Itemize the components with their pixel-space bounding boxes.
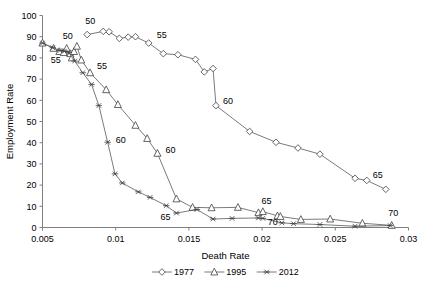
data-point-marker-1977 (116, 35, 123, 42)
data-point-marker-2012 (147, 195, 153, 200)
data-point-marker-1977 (125, 34, 132, 41)
x-tick-label: 0.015 (178, 234, 201, 244)
data-point-marker-2012 (290, 221, 296, 226)
x-tick-label: 0.01 (107, 234, 125, 244)
data-point-marker-1977 (352, 175, 359, 182)
chart-legend: 197719952012 (152, 267, 299, 277)
legend-label-2012: 2012 (279, 267, 299, 277)
point-annotation-1995-55: 55 (97, 61, 107, 71)
point-annotation-2012-55: 55 (51, 55, 61, 65)
point-annotation-1977-65: 65 (373, 170, 383, 180)
y-tick-label: 70 (26, 74, 36, 84)
y-axis-title: Employment Rate (4, 84, 15, 160)
data-point-marker-1977 (201, 69, 208, 76)
legend-item-1995[interactable]: 1995 (204, 267, 246, 277)
point-annotation-1977-60: 60 (223, 96, 233, 106)
legend-item-2012[interactable]: 2012 (257, 267, 299, 277)
data-point-marker-1977 (213, 102, 220, 109)
data-point-marker-1977 (383, 186, 390, 193)
data-point-marker-2012 (317, 222, 323, 227)
data-point-marker-2012 (80, 70, 86, 75)
data-point-marker-1977 (106, 29, 113, 36)
series-1977 (84, 28, 389, 193)
legend-marker-2012 (264, 270, 270, 275)
legend-label-1977: 1977 (174, 267, 194, 277)
axis-ticks-layer: 01020304050607080901000.0050.010.0150.02… (21, 11, 417, 244)
chart-container: 01020304050607080901000.0050.010.0150.02… (0, 0, 423, 290)
point-annotation-1995-50: 50 (63, 31, 73, 41)
data-point-marker-1977 (273, 139, 280, 146)
data-point-marker-1977 (295, 145, 302, 152)
data-point-marker-1995 (87, 69, 94, 76)
data-point-marker-2012 (279, 221, 285, 226)
y-tick-label: 0 (31, 223, 36, 233)
point-annotation-2012-60: 60 (116, 135, 126, 145)
data-point-marker-1995 (73, 42, 80, 49)
data-point-marker-1977 (192, 56, 199, 63)
legend-marker-1977 (159, 269, 166, 276)
data-point-marker-1977 (145, 40, 152, 47)
data-point-marker-1995 (154, 150, 161, 157)
x-tick-label: 0.025 (324, 234, 347, 244)
y-tick-label: 80 (26, 53, 36, 63)
data-point-marker-1995 (234, 204, 241, 211)
point-annotation-2012-70: 70 (388, 208, 398, 218)
data-point-marker-1995 (259, 208, 266, 215)
data-point-marker-2012 (88, 82, 94, 87)
data-point-marker-1977 (210, 65, 217, 72)
y-tick-label: 30 (26, 159, 36, 169)
series-line-2012 (43, 43, 391, 226)
point-annotation-1995-60: 60 (165, 145, 175, 155)
data-point-marker-1977 (317, 151, 324, 158)
point-annotation-1977-55: 55 (157, 30, 167, 40)
data-point-marker-1995 (78, 56, 85, 63)
legend-marker-1995 (211, 268, 218, 275)
point-annotation-2012-70: 70 (268, 217, 278, 227)
data-point-marker-2012 (229, 216, 235, 221)
data-point-marker-1977 (100, 28, 107, 35)
data-series-layer (39, 28, 395, 228)
data-point-marker-1977 (175, 51, 182, 58)
data-point-marker-1977 (132, 33, 139, 40)
axes-layer (43, 16, 409, 228)
point-annotation-1995-65: 65 (261, 196, 271, 206)
series-line-1977 (87, 31, 386, 189)
series-line-1995 (43, 43, 392, 225)
y-tick-label: 60 (26, 96, 36, 106)
x-tick-label: 0.005 (31, 234, 54, 244)
y-tick-label: 10 (26, 202, 36, 212)
y-tick-label: 40 (26, 138, 36, 148)
legend-item-1977[interactable]: 1977 (152, 267, 194, 277)
y-tick-label: 50 (26, 117, 36, 127)
data-point-marker-1977 (246, 128, 253, 135)
series-1995 (39, 39, 395, 228)
data-point-marker-1995 (327, 215, 334, 222)
y-tick-label: 20 (26, 180, 36, 190)
x-tick-label: 0.03 (400, 234, 418, 244)
data-point-marker-1977 (363, 177, 370, 184)
data-point-marker-1977 (84, 31, 91, 38)
point-annotation-1977-50: 50 (85, 16, 95, 26)
x-tick-label: 0.02 (253, 234, 271, 244)
data-point-marker-1995 (173, 195, 180, 202)
x-axis-title: Death Rate (201, 250, 249, 261)
y-tick-label: 100 (21, 11, 36, 21)
y-tick-label: 90 (26, 32, 36, 42)
point-annotation-2012-65: 65 (160, 212, 170, 222)
employment-vs-death-rate-chart: 01020304050607080901000.0050.010.0150.02… (0, 0, 423, 290)
data-point-marker-1977 (160, 50, 167, 57)
legend-label-1995: 1995 (226, 267, 246, 277)
